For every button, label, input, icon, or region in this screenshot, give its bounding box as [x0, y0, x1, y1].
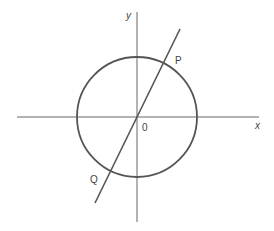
circle-line-diagram: x y 0 P Q: [0, 0, 274, 231]
point-p-label: P: [175, 55, 182, 66]
point-q-label: Q: [90, 174, 98, 185]
y-axis-label: y: [125, 10, 132, 21]
x-axis-label: x: [254, 120, 261, 131]
origin-label: 0: [142, 122, 148, 133]
